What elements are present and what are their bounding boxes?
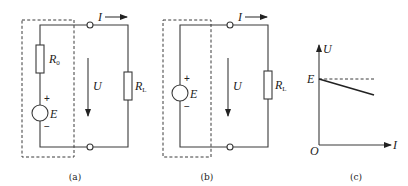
- origin-label: O: [310, 144, 319, 158]
- terminal-bottom: [227, 144, 233, 150]
- source-label: E: [49, 107, 58, 121]
- y-axis-label: U: [323, 42, 333, 56]
- minus-sign: −: [184, 101, 190, 112]
- intercept-label: E: [306, 72, 315, 86]
- source-label: E: [189, 87, 198, 101]
- source-boundary-box: [22, 20, 74, 157]
- caption-c: (c): [350, 172, 362, 182]
- panel-a: R0 + − E I U RL (a): [22, 10, 147, 182]
- plus-sign: +: [184, 73, 190, 84]
- internal-resistor: [36, 45, 44, 73]
- bottom-wire: [180, 99, 268, 147]
- internal-resistor-label: R0: [48, 52, 60, 67]
- x-axis-label: I: [392, 138, 398, 152]
- characteristic-line: [319, 79, 374, 95]
- voltage-source-icon: [32, 105, 48, 121]
- panel-b: + − E I U RL (b): [163, 10, 287, 182]
- load-resistor-label: RL: [134, 79, 147, 94]
- current-label: I: [97, 10, 103, 24]
- voltage-label: U: [233, 79, 243, 93]
- voltage-label: U: [93, 79, 103, 93]
- terminal-top: [87, 22, 93, 28]
- terminal-bottom: [87, 144, 93, 150]
- minus-sign: −: [44, 121, 50, 132]
- voltage-source-icon: [172, 85, 188, 101]
- panel-c: U I O E (c): [306, 42, 398, 182]
- current-label: I: [237, 10, 243, 24]
- load-resistor: [124, 72, 132, 100]
- top-wire: [180, 25, 268, 85]
- load-resistor: [264, 71, 272, 99]
- plus-sign: +: [44, 93, 50, 104]
- load-resistor-label: RL: [274, 78, 287, 93]
- caption-b: (b): [201, 172, 214, 182]
- circuit-figure: R0 + − E I U RL (a) + − E I: [0, 0, 408, 186]
- caption-a: (a): [69, 172, 81, 182]
- terminal-top: [227, 22, 233, 28]
